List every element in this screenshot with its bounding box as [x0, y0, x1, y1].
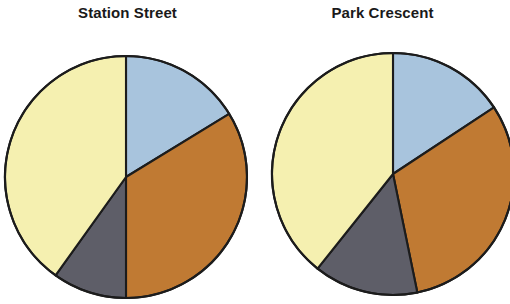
chart-panel-station-street: Station Street: [0, 0, 255, 304]
pie-svg-station-street: [0, 0, 255, 304]
pie-station-street: [0, 0, 255, 304]
pie-svg-park-crescent: [255, 0, 510, 304]
pie-chart-figure: Station Street Park Crescent: [0, 0, 510, 304]
pie-park-crescent: [255, 0, 510, 304]
chart-panel-park-crescent: Park Crescent: [255, 0, 510, 304]
